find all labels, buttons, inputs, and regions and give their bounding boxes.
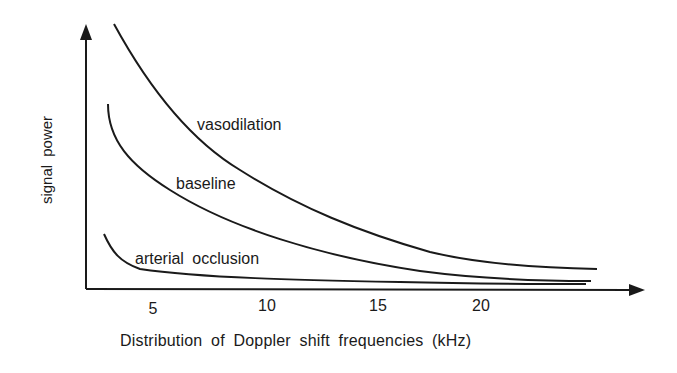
y-axis-arrow-icon <box>80 24 92 40</box>
y-axis-label: signal power <box>38 116 55 204</box>
label-arterial-occlusion: arterial occlusion <box>135 250 259 268</box>
chart-canvas <box>0 0 677 373</box>
label-vasodilation: vasodilation <box>197 116 282 134</box>
label-baseline: baseline <box>176 175 236 193</box>
x-axis-line <box>86 289 630 290</box>
x-tick-10: 10 <box>258 297 276 315</box>
x-tick-15: 15 <box>369 297 387 315</box>
x-axis-label: Distribution of Doppler shift frequencie… <box>120 332 471 350</box>
series-vasodilation <box>114 24 597 269</box>
x-tick-20: 20 <box>472 297 490 315</box>
x-tick-5: 5 <box>149 300 158 318</box>
x-axis-arrow-icon <box>629 284 645 296</box>
